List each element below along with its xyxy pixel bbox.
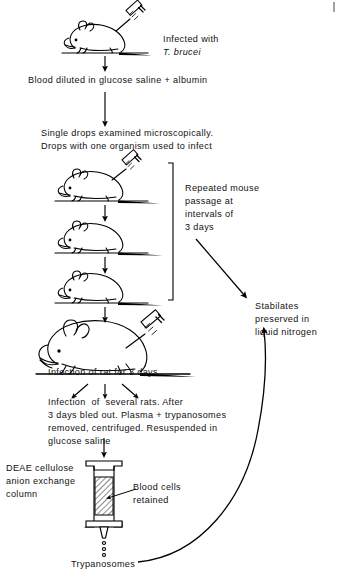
label-repeated-passage-line2: passage at: [185, 195, 233, 208]
label-column-line3: column: [6, 488, 38, 501]
label-trypanosomes: Trypanosomes: [71, 558, 135, 571]
repeated-passage-bracket: [168, 163, 173, 300]
label-column-line1: DEAE cellulose: [6, 462, 74, 475]
label-infected-with: Infected with: [163, 33, 219, 46]
arrow-to-stabilates: [196, 239, 245, 296]
arrow-trypanosomes-to-stabilates: [138, 330, 266, 562]
label-blood-diluted: Blood diluted in glucose saline + albumi…: [28, 74, 207, 87]
label-stabilates-line3: liquid nitrogen: [255, 326, 317, 339]
label-blood-cells-line1: Blood cells: [133, 481, 181, 494]
label-single-drops-line2: Drops with one organism used to infect: [41, 140, 212, 153]
label-column-line2: anion exchange: [6, 475, 75, 488]
label-several-rats-line1: Infection of several rats. After: [48, 396, 183, 409]
mouse-passage-1-illustration: [55, 150, 160, 204]
label-repeated-passage-line3: intervals of: [185, 208, 233, 221]
label-several-rats-line3: removed, centrifuged. Resuspended in: [48, 422, 217, 435]
label-stabilates-line1: Stabilates: [255, 300, 299, 313]
mouse-passage-3-illustration: [55, 271, 163, 306]
label-repeated-passage-line1: Repeated mouse: [185, 182, 259, 195]
label-blood-cells-line2: retained: [133, 494, 169, 507]
label-species-name: T. brucei: [163, 46, 201, 59]
label-repeated-passage-line4: 3 days: [185, 221, 214, 234]
label-infection-of-rat: Infection of rat for 3 days: [48, 366, 158, 379]
label-several-rats-line2: 3 days bled out. Plasma + trypanosomes: [48, 409, 226, 422]
label-stabilates-line2: preserved in: [255, 313, 309, 326]
mouse-with-syringe-illustration: [62, 0, 152, 55]
label-several-rats-line4: glucose saline: [48, 435, 111, 448]
deae-cellulose-column-illustration: [86, 461, 122, 557]
label-single-drops-line1: Single drops examined microscopically.: [41, 127, 213, 140]
mouse-passage-2-illustration: [55, 221, 163, 256]
diagram-page: Infected with T. brucei Blood diluted in…: [0, 0, 339, 575]
